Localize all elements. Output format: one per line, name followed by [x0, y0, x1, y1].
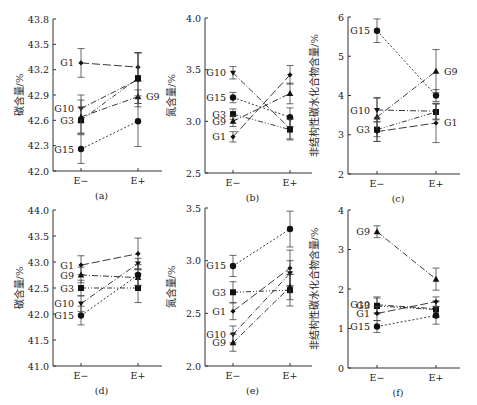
- marker-triangle: [230, 118, 237, 124]
- series-line: [81, 264, 138, 304]
- series-label: G10: [54, 103, 74, 114]
- marker-circle: [433, 92, 439, 98]
- y-tick-label: 42.0: [28, 309, 49, 320]
- series-label: G1: [444, 117, 458, 128]
- y-tick-label: 42.9: [28, 90, 49, 101]
- panel-label: (b): [246, 192, 260, 203]
- panel-c: 23456E−E+(c)非结构性碳水化合物含量/%G15G9G10G3G1: [308, 12, 460, 205]
- series-label: G1: [60, 57, 74, 68]
- x-tick-label: E+: [283, 177, 298, 188]
- series-line: [233, 290, 290, 292]
- x-tick-label: E−: [74, 370, 89, 381]
- series-label: G3: [60, 283, 74, 294]
- marker-inverted-triangle: [374, 108, 380, 113]
- series-line: [81, 78, 138, 120]
- panel-label: (f): [393, 387, 404, 398]
- marker-square: [78, 285, 84, 291]
- y-tick-label: 42.6: [28, 115, 49, 126]
- y-tick-label: 3.5: [186, 64, 201, 75]
- y-tick-label: 43.0: [28, 257, 49, 268]
- marker-diamond: [433, 299, 438, 304]
- series-label: G3: [356, 124, 370, 135]
- series-g15: G15: [350, 19, 439, 101]
- y-tick-label: 2: [338, 169, 344, 180]
- y-tick-label: 3: [338, 244, 344, 255]
- series-line: [233, 229, 290, 266]
- y-tick-label: 44.0: [28, 205, 49, 216]
- marker-diamond: [78, 60, 83, 65]
- marker-diamond: [374, 311, 379, 316]
- marker-circle: [374, 323, 380, 329]
- y-tick-label: 2.5: [186, 308, 201, 319]
- series-line: [233, 93, 290, 121]
- series-line: [377, 123, 436, 132]
- x-tick-label: E+: [131, 175, 146, 186]
- series-label: G9: [212, 116, 226, 127]
- y-tick-label: 2: [338, 284, 344, 295]
- y-tick-label: 3.0: [186, 255, 201, 266]
- x-tick-label: E+: [131, 370, 146, 381]
- panel-f: 01234E−E+(f)非结构性碳水化合物含量/%G9G10G3G1G15: [308, 205, 460, 399]
- series-label: G3: [60, 115, 74, 126]
- y-tick-label: 6: [338, 12, 344, 23]
- series-line: [377, 110, 436, 111]
- marker-circle: [78, 312, 84, 318]
- marker-circle: [135, 118, 141, 124]
- marker-circle: [374, 28, 380, 34]
- y-tick-label: 43.5: [28, 39, 49, 50]
- marker-square: [135, 75, 141, 81]
- x-tick-label: E+: [429, 178, 444, 189]
- y-axis-label: 碳含量/%: [13, 267, 25, 310]
- series-line: [233, 273, 290, 334]
- marker-triangle: [287, 90, 294, 96]
- series-g10: G10: [206, 261, 293, 343]
- series-line: [81, 254, 138, 265]
- panel-label: (e): [246, 385, 259, 396]
- y-tick-label: 43.8: [28, 14, 49, 25]
- series-g9: G9: [356, 226, 439, 290]
- marker-triangle: [287, 284, 294, 290]
- series-g15: G15: [206, 211, 293, 276]
- series-g1: G1: [374, 103, 458, 142]
- marker-circle: [135, 272, 141, 278]
- y-tick-label: 5: [338, 51, 344, 62]
- series-line: [233, 268, 290, 311]
- series-label: G9: [212, 337, 226, 348]
- series-line: [81, 275, 138, 316]
- series-line: [233, 287, 290, 343]
- series-label: G15: [206, 260, 226, 271]
- marker-circle: [433, 312, 439, 318]
- series-g1: G1: [60, 49, 141, 82]
- series-label: G15: [206, 92, 226, 103]
- y-tick-label: 41.5: [28, 335, 49, 346]
- y-tick-label: 42.5: [28, 283, 49, 294]
- y-tick-label: 42.0: [28, 166, 49, 177]
- panel-d: 41.041.542.042.543.043.544.0E−E+(d)碳含量/%…: [13, 205, 162, 397]
- series-label: G10: [206, 67, 226, 78]
- y-tick-label: 4: [338, 90, 344, 101]
- series-g3: G3: [212, 274, 293, 306]
- x-tick-label: E−: [370, 178, 385, 189]
- y-axis-label: 非结构性碳水化合物含量/%: [308, 34, 320, 157]
- y-tick-label: 41.0: [28, 361, 49, 372]
- x-tick-label: E+: [429, 372, 444, 383]
- series-label: G9: [60, 270, 74, 281]
- panel-e: 2.02.53.03.5E−E+(e)氮含量/%G15G3G1G10G9: [165, 203, 312, 397]
- marker-circle: [78, 146, 84, 152]
- y-tick-label: 4: [338, 205, 344, 216]
- series-line: [81, 80, 138, 109]
- marker-circle: [287, 226, 293, 232]
- y-axis-label: 非结构性碳水化合物含量/%: [308, 228, 320, 351]
- series-line: [377, 31, 436, 96]
- marker-triangle: [374, 228, 381, 234]
- series-line: [377, 306, 436, 310]
- y-tick-label: 3.5: [186, 203, 201, 214]
- series-label: G15: [350, 321, 370, 332]
- marker-diamond: [433, 120, 438, 125]
- series-line: [233, 75, 290, 137]
- figure: 42.042.342.642.943.243.543.8E−E+(a)碳含量/%…: [0, 0, 477, 405]
- series-label: G9: [356, 226, 370, 237]
- series-label: G15: [350, 25, 370, 36]
- y-tick-label: 2.5: [186, 168, 201, 179]
- x-tick-label: E−: [74, 175, 89, 186]
